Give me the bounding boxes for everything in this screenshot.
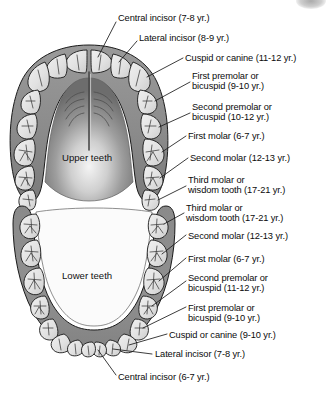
label-upper-third-molar-line1: Third molar or: [188, 175, 244, 185]
label-lower-lateral-incisor: Lateral incisor (7-8 yr.): [155, 349, 245, 359]
label-lower-first-premolar-line2: bicuspid (9-10 yr.): [188, 313, 260, 323]
leader-u-cuspid: [147, 58, 183, 77]
label-lower-third-molar-line2: wisdom tooth (17-21 yr.): [186, 213, 283, 223]
label-upper-third-molar-line2: wisdom tooth (17-21 yr.): [188, 185, 285, 195]
label-upper-cuspid: Cuspid or canine (11-12 yr.): [185, 53, 296, 63]
label-lower-first-molar: First molar (6-7 yr.): [188, 254, 264, 264]
lower-arch-group: [13, 206, 175, 357]
label-lower-second-premolar-line1: Second premolar or: [188, 273, 268, 283]
label-lower-third-molar-line1: Third molar or: [186, 203, 242, 213]
leader-u-third-molar: [158, 186, 186, 200]
dental-arch-figure: Upper teeth Lower teeth Central incisor …: [0, 0, 334, 395]
label-lower-cuspid: Cuspid or canine (9-10 yr.): [169, 330, 276, 340]
corner-circle-mark: [296, 0, 326, 9]
label-lower-central-incisor: Central incisor (6-7 yr.): [118, 372, 210, 382]
label-upper-second-molar: Second molar (12-13 yr.): [190, 153, 290, 163]
label-upper-central-incisor: Central incisor (7-8 yr.): [118, 13, 210, 23]
label-upper-first-premolar-line2: bicuspid (9-10 yr.): [192, 81, 264, 91]
label-upper-first-molar: First molar (6-7 yr.): [188, 131, 264, 141]
label-upper-second-premolar-line2: bicuspid (10-12 yr.): [192, 112, 269, 122]
label-lower-second-premolar-line2: bicuspid (11-12 yr.): [188, 283, 264, 293]
label-lower-second-molar: Second molar (12-13 yr.): [188, 231, 288, 241]
upper-arch-group: [10, 45, 168, 210]
upper-arch-label: Upper teeth: [62, 152, 112, 163]
lower-arch-label: Lower teeth: [62, 270, 112, 281]
label-upper-first-premolar-line1: First premolar or: [192, 71, 259, 81]
label-upper-lateral-incisor: Lateral incisor (8-9 yr.): [139, 33, 229, 43]
label-upper-second-premolar-line1: Second premolar or: [192, 102, 272, 112]
label-lower-first-premolar-line1: First premolar or: [188, 303, 255, 313]
